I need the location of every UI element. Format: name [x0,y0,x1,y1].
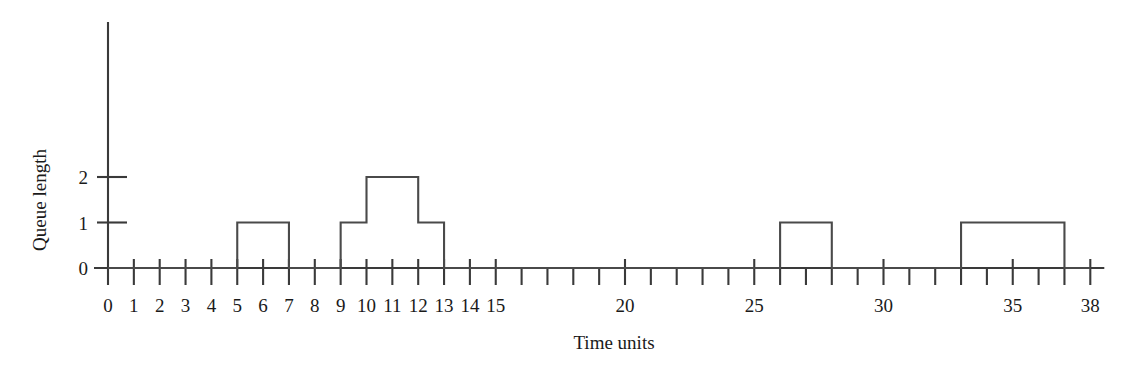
x-tick-label: 3 [181,295,191,316]
y-axis-title: Queue length [29,149,50,251]
x-tick-label: 20 [616,295,635,316]
x-tick-label: 9 [336,295,346,316]
x-tick-label: 7 [284,295,294,316]
chart-canvas: 01234567891011121314152025303538 012 Tim… [0,0,1121,367]
y-axis-tick-labels: 012 [79,167,89,279]
y-tick-label: 0 [79,258,89,279]
x-tick-label: 13 [435,295,454,316]
x-axis-title: Time units [573,332,654,353]
x-tick-label: 10 [357,295,376,316]
x-tick-label: 5 [233,295,243,316]
x-tick-label: 14 [460,295,480,316]
x-tick-label: 1 [129,295,139,316]
y-tick-label: 1 [79,213,89,234]
x-tick-label: 6 [258,295,268,316]
x-tick-label: 12 [409,295,428,316]
x-tick-label: 2 [155,295,165,316]
x-tick-label: 38 [1081,295,1100,316]
y-tick-label: 2 [79,167,89,188]
x-tick-label: 8 [310,295,320,316]
x-tick-label: 35 [1003,295,1022,316]
x-tick-label: 11 [383,295,401,316]
x-tick-label: 25 [745,295,764,316]
chart-background [0,0,1121,367]
x-tick-label: 15 [486,295,505,316]
queue-length-step-chart: 01234567891011121314152025303538 012 Tim… [0,0,1121,367]
x-tick-label: 0 [103,295,113,316]
x-tick-label: 30 [874,295,893,316]
x-tick-label: 4 [207,295,217,316]
